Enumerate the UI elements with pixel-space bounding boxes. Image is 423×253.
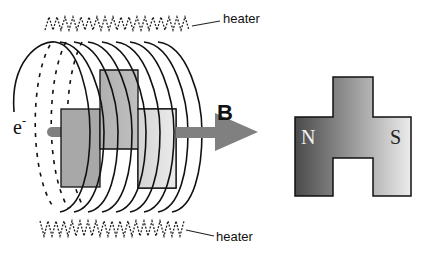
field-label: B	[217, 100, 233, 126]
heater-bottom-label: heater	[216, 229, 253, 244]
south-pole-label: S	[390, 126, 401, 149]
plate-left	[61, 109, 100, 187]
diagram: heater heater e- B N S	[0, 0, 423, 253]
electron-label: e-	[13, 116, 26, 139]
solenoid-diagram	[0, 0, 423, 253]
heater-bottom-coil	[40, 221, 184, 236]
heater-top-coil	[45, 17, 189, 30]
heater-top-label: heater	[223, 11, 260, 26]
north-pole-label: N	[301, 126, 315, 149]
